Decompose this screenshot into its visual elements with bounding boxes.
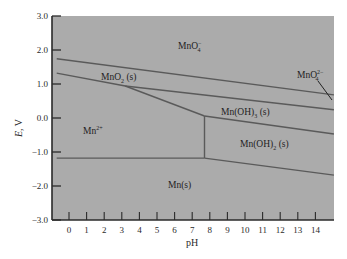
x-tick-label: 13 [293, 225, 303, 235]
x-axis-title: pH [186, 237, 198, 248]
y-tick-label: 2.0 [37, 45, 49, 55]
x-tick-label: 14 [311, 225, 321, 235]
x-tick-label: 7 [190, 225, 195, 235]
y-tick-label: 1.0 [37, 79, 49, 89]
y-tick-label: −1.0 [32, 147, 49, 157]
region-label-mn-solid: Mn(s) [168, 180, 191, 191]
y-tick-label: 0.0 [37, 113, 49, 123]
x-tick-label: 1 [84, 225, 89, 235]
y-tick-label: 3.0 [37, 11, 49, 21]
x-tick-label: 3 [120, 225, 125, 235]
y-tick-label: −3.0 [32, 215, 49, 225]
x-tick-label: 8 [208, 225, 213, 235]
x-tick-label: 11 [258, 225, 267, 235]
x-tick-label: 10 [241, 225, 251, 235]
y-axis-title: E, V [13, 118, 24, 138]
x-tick-label: 2 [102, 225, 107, 235]
x-tick-label: 5 [155, 225, 160, 235]
x-tick-label: 0 [67, 225, 72, 235]
x-tick-label: 12 [276, 225, 285, 235]
x-tick-label: 6 [172, 225, 177, 235]
pourbaix-diagram: 3.02.01.00.0−1.0−2.0−3.0 012345678910111… [0, 0, 347, 259]
y-tick-label: −2.0 [32, 181, 49, 191]
x-tick-label: 9 [225, 225, 230, 235]
x-tick-label: 4 [137, 225, 142, 235]
